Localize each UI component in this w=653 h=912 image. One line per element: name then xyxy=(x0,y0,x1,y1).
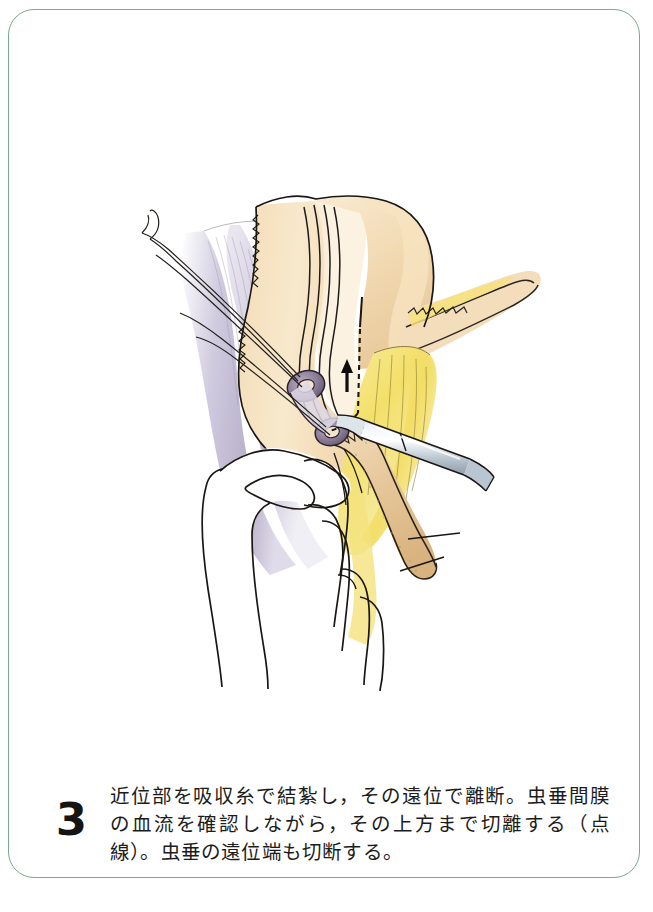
step-number: 3 xyxy=(40,794,102,846)
figure-page: 3 近位部を吸収糸で結紮し，その遠位で離断。虫垂間膜の血流を確認しながら，その上… xyxy=(0,0,653,912)
caption-text: 近位部を吸収糸で結紮し，その遠位で離断。虫垂間膜の血流を確認しながら，その上方ま… xyxy=(110,783,610,868)
surgical-illustration xyxy=(8,9,640,769)
caption-block: 3 近位部を吸収糸で結紮し，その遠位で離断。虫垂間膜の血流を確認しながら，その上… xyxy=(22,780,622,872)
